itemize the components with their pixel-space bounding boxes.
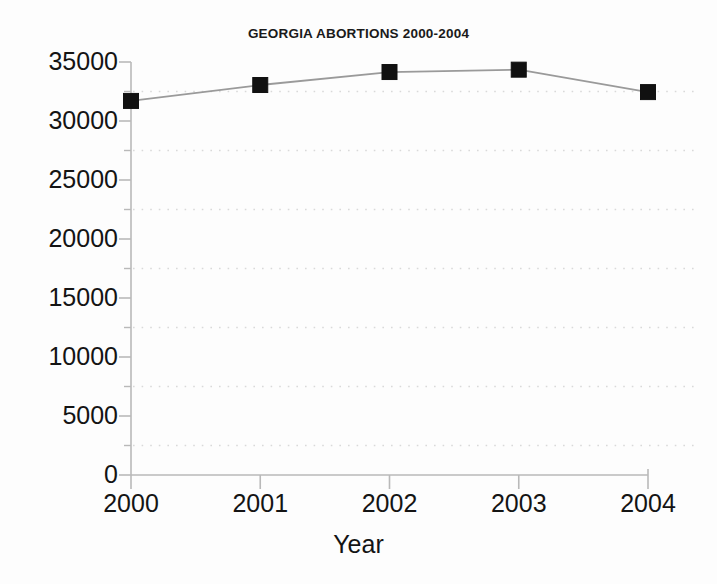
data-point-marker[interactable] xyxy=(124,93,139,108)
x-axis-tick-label: 2001 xyxy=(232,491,288,516)
x-axis-tick-label: 2002 xyxy=(362,491,418,516)
data-point-marker[interactable] xyxy=(641,85,656,100)
x-axis-tick-label: 2000 xyxy=(103,491,159,516)
x-axis-title: Year xyxy=(0,530,717,559)
gridlines xyxy=(133,92,700,446)
data-point-marker[interactable] xyxy=(382,65,397,80)
chart-container: GEORGIA ABORTIONS 2000-2004 350003000025… xyxy=(0,0,717,584)
x-axis xyxy=(131,469,648,489)
data-point-marker[interactable] xyxy=(253,78,268,93)
data-point-marker[interactable] xyxy=(511,62,526,77)
x-axis-tick-labels: 20002001200220032004 xyxy=(0,491,717,531)
x-axis-tick-label: 2003 xyxy=(491,491,547,516)
y-axis xyxy=(119,62,131,475)
data-series xyxy=(124,62,656,108)
x-axis-tick-label: 2004 xyxy=(620,491,676,516)
